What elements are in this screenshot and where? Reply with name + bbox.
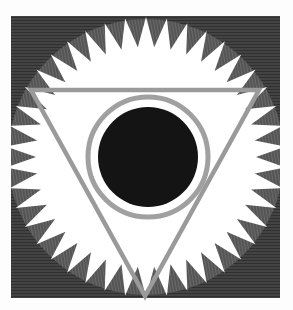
illustration-canvas	[0, 0, 293, 310]
black-core-circle	[98, 107, 198, 207]
sun-eye-symbol-illustration	[0, 0, 293, 310]
